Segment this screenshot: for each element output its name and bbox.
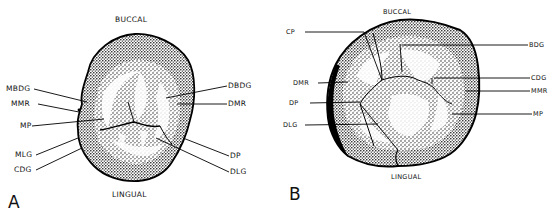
- label-b-dp: DP: [289, 100, 299, 107]
- label-b-mp: MP: [533, 111, 543, 118]
- label-a-cdg: CDG: [14, 166, 32, 174]
- label-b-cdg: CDG: [531, 75, 546, 82]
- panel-b-letter: B: [289, 186, 301, 203]
- label-a-mlg: MLG: [15, 151, 32, 159]
- panel-b-buccal-label: BUCCAL: [383, 9, 411, 16]
- panel-a-buccal-label: BUCCAL: [115, 16, 147, 24]
- label-b-dmr: DMR: [293, 80, 309, 87]
- panel-a-tooth: [77, 34, 194, 181]
- label-a-mmr: MMR: [11, 100, 30, 108]
- panel-a-lingual-label: LINGUAL: [112, 191, 147, 199]
- label-a-dp: DP: [230, 152, 241, 160]
- label-a-dmr: DMR: [228, 100, 246, 108]
- panel-b-lingual-label: LINGUAL: [391, 174, 421, 181]
- label-a-mp: MP: [20, 122, 32, 130]
- label-a-mbdg: MBDG: [6, 85, 30, 93]
- label-b-bdg: BDG: [529, 42, 544, 49]
- label-b-cp: CP: [286, 29, 295, 36]
- panel-b-tooth: [327, 19, 479, 166]
- figure-drawing: [0, 0, 554, 220]
- panel-a-letter: A: [8, 194, 20, 211]
- label-b-dlg: DLG: [283, 122, 298, 129]
- label-b-mmr: MMR: [531, 88, 548, 95]
- label-a-dlg: DLG: [230, 168, 247, 176]
- dental-occlusal-figure: BUCCAL LINGUAL A MBDG MMR MP MLG CDG DBD…: [0, 0, 554, 220]
- label-a-dbdg: DBDG: [228, 82, 252, 90]
